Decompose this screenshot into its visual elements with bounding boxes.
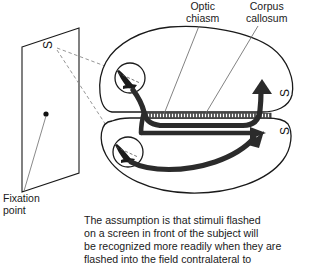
label-optic-chiasm: Optic chiasm xyxy=(186,1,219,24)
stimulus-letter-lower-hemisphere: S xyxy=(278,127,292,135)
stimulus-letter-upper-hemisphere: S xyxy=(278,89,292,97)
upper-eye xyxy=(115,63,145,93)
stimulus-letter-screen: S xyxy=(41,41,55,49)
fixation-dot xyxy=(43,111,48,116)
figure-caption: The assumption is that stimuli flashed o… xyxy=(84,214,311,266)
label-fixation-point: Fixation point xyxy=(3,193,40,216)
label-corpus-callosum: Corpus callosum xyxy=(246,1,287,24)
